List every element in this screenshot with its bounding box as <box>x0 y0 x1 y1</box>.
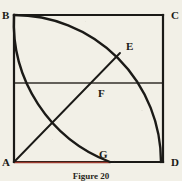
point-label-f: F <box>98 88 105 99</box>
vertex-label-d: D <box>171 157 179 168</box>
point-label-g: G <box>99 149 108 160</box>
vertex-label-b: B <box>2 10 9 21</box>
figure-caption: Figure 20 <box>0 171 182 181</box>
vertex-label-a: A <box>2 157 10 168</box>
point-label-e: E <box>126 41 133 52</box>
geometry-figure: B C A D E F G Figure 20 <box>0 0 182 181</box>
figure-canvas <box>0 0 182 181</box>
vertex-label-c: C <box>171 10 179 21</box>
